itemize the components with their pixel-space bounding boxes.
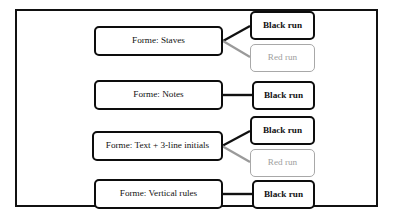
forme-node-staves-label: Forme: Staves bbox=[132, 36, 185, 46]
run-node-text-initials-red[interactable]: Red run bbox=[250, 149, 315, 177]
run-node-text-initials-black[interactable]: Black run bbox=[250, 116, 315, 145]
run-node-staves-red-label: Red run bbox=[268, 53, 297, 63]
run-node-text-initials-red-label: Red run bbox=[268, 158, 297, 168]
forme-run-diagram: Forme: Staves Black run Red run Forme: N… bbox=[0, 0, 403, 220]
run-node-staves-black[interactable]: Black run bbox=[250, 11, 315, 40]
run-node-text-initials-black-label: Black run bbox=[263, 126, 302, 136]
run-node-staves-red[interactable]: Red run bbox=[250, 44, 315, 72]
forme-node-notes[interactable]: Forme: Notes bbox=[94, 80, 223, 110]
forme-node-text-initials[interactable]: Forme: Text + 3-line initials bbox=[92, 131, 223, 161]
run-node-staves-black-label: Black run bbox=[263, 21, 302, 31]
forme-node-staves[interactable]: Forme: Staves bbox=[94, 26, 223, 56]
run-node-vertical-rules-black-label: Black run bbox=[264, 190, 303, 200]
forme-node-vertical-rules-label: Forme: Vertical rules bbox=[120, 189, 197, 199]
run-node-notes-black-label: Black run bbox=[264, 91, 303, 101]
forme-node-vertical-rules[interactable]: Forme: Vertical rules bbox=[94, 179, 223, 209]
run-node-notes-black[interactable]: Black run bbox=[252, 81, 315, 110]
forme-node-text-initials-label: Forme: Text + 3-line initials bbox=[106, 141, 209, 151]
forme-node-notes-label: Forme: Notes bbox=[133, 90, 183, 100]
run-node-vertical-rules-black[interactable]: Black run bbox=[252, 180, 315, 209]
